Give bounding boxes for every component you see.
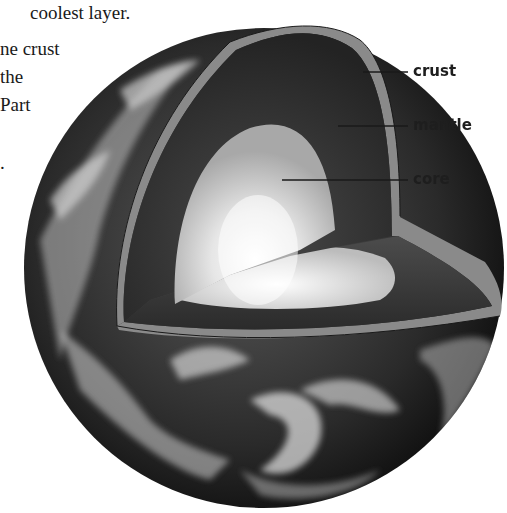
label-mantle: mantle [413,116,472,134]
label-core: core [413,170,450,188]
label-crust: crust [413,62,456,80]
